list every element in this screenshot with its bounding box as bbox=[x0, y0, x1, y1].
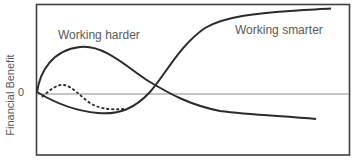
transition-dashed-curve bbox=[42, 85, 124, 109]
y-axis-label: Financial Benefit bbox=[3, 40, 17, 150]
y-tick-zero: 0 bbox=[18, 86, 24, 98]
y-axis-label-text: Financial Benefit bbox=[4, 54, 16, 135]
annotation-working-harder: Working harder bbox=[58, 28, 140, 42]
annotation-working-smarter: Working smarter bbox=[235, 23, 323, 37]
